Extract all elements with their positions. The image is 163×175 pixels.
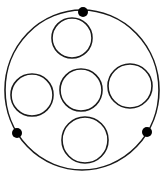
circles-diagram (0, 0, 163, 175)
inner-circle-left (11, 74, 53, 116)
dot-top (78, 7, 88, 17)
boundary-dots (12, 7, 152, 138)
outer-circle (5, 10, 159, 170)
dot-right (142, 127, 152, 137)
dot-left (12, 128, 22, 138)
inner-circle-bottom (62, 117, 108, 163)
inner-circles (11, 18, 152, 163)
inner-circle-center (60, 69, 102, 111)
inner-circle-top (52, 18, 92, 58)
inner-circle-right (108, 64, 152, 108)
